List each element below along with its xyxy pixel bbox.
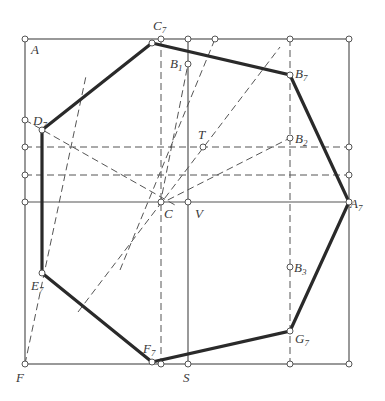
point-marker: [39, 270, 45, 276]
point-marker: [287, 264, 293, 270]
label-S: S: [183, 370, 190, 385]
point-marker: [22, 36, 28, 42]
label-G7: G7: [295, 331, 309, 348]
point-marker: [287, 135, 293, 141]
point-marker: [287, 361, 293, 367]
point-marker: [287, 328, 293, 334]
label-B1: B1: [170, 56, 182, 73]
point-marker: [346, 144, 352, 150]
point-marker: [287, 36, 293, 42]
label-F7: F7: [142, 341, 156, 358]
point-marker: [158, 361, 164, 367]
point-marker: [149, 40, 155, 46]
label-B3: B3: [294, 260, 307, 277]
label-T: T: [198, 127, 206, 142]
label-A: A: [30, 42, 39, 57]
point-marker: [185, 61, 191, 67]
point-marker: [158, 199, 164, 205]
label-C7: C7: [153, 18, 167, 35]
diagonal-long-1: [120, 39, 215, 270]
diagonal-c-b1-line: [160, 64, 188, 205]
diagram-canvas: AC7B1B7D7TB2CVA7B3E7G7F7FS: [0, 0, 385, 401]
diagonal-long-2: [78, 47, 280, 312]
point-marker: [185, 361, 191, 367]
label-B7: B7: [295, 66, 308, 83]
point-marker: [212, 36, 218, 42]
label-C: C: [164, 206, 173, 221]
diagonal-d7-c: [25, 120, 175, 205]
point-marker: [22, 361, 28, 367]
point-marker: [200, 144, 206, 150]
label-B2: B2: [295, 131, 308, 148]
point-marker: [185, 199, 191, 205]
diagonal-c-b2: [158, 138, 290, 205]
point-marker: [22, 144, 28, 150]
label-D7: D7: [32, 113, 47, 130]
label-F: F: [15, 370, 25, 385]
point-marker: [149, 359, 155, 365]
point-marker: [158, 36, 164, 42]
point-marker: [287, 72, 293, 78]
point-marker: [22, 199, 28, 205]
label-A7: A7: [349, 196, 363, 213]
point-marker: [346, 361, 352, 367]
point-marker: [346, 36, 352, 42]
point-marker: [185, 36, 191, 42]
point-marker: [346, 172, 352, 178]
point-marker: [22, 117, 28, 123]
label-E7: E7: [30, 278, 44, 295]
label-V: V: [195, 206, 205, 221]
heptagon-construction-diagram: AC7B1B7D7TB2CVA7B3E7G7F7FS: [0, 0, 385, 401]
point-marker: [22, 172, 28, 178]
